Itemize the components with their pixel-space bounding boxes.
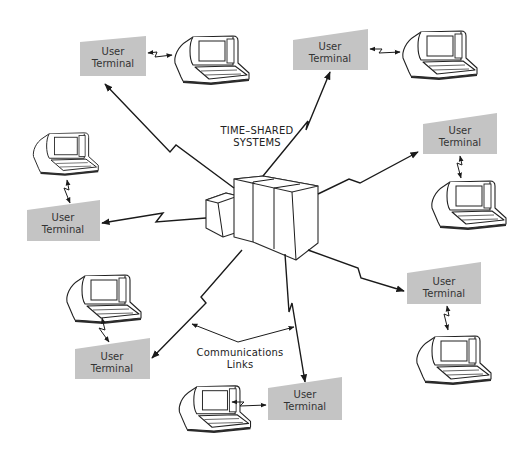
terminal-label-line2: Terminal	[41, 224, 84, 235]
terminal-label-line2: Terminal	[90, 363, 133, 374]
terminal-label-line1: User	[52, 212, 76, 223]
crt-terminal-icon	[175, 36, 249, 85]
links-label-line2: Links	[227, 359, 254, 370]
network-diagram: TIME–SHARED SYSTEMS Communications Links…	[0, 0, 524, 453]
terminal-label-line2: Terminal	[438, 137, 481, 148]
crt-terminal-icon	[403, 31, 477, 80]
crt-terminal-icon	[432, 181, 506, 230]
terminal-label-line2: Terminal	[91, 58, 134, 69]
central-computer-icon	[206, 176, 318, 260]
terminal-label-line2: Terminal	[422, 288, 465, 299]
terminal-label-line2: Terminal	[308, 53, 351, 64]
user-terminal-bottom-center: User Terminal	[179, 377, 342, 433]
terminal-label-line1: User	[101, 351, 125, 362]
crt-terminal-icon	[417, 336, 491, 385]
crt-terminal-icon	[179, 386, 250, 433]
terminal-label-line1: User	[294, 389, 318, 400]
crt-terminal-icon	[33, 133, 98, 176]
user-terminal-top-left: User Terminal	[80, 36, 249, 85]
user-terminal-bottom-left: User Terminal	[67, 275, 150, 379]
terminal-label-line1: User	[319, 41, 343, 52]
central-system-label-line1: TIME–SHARED	[220, 125, 294, 136]
central-system-label-line2: SYSTEMS	[233, 137, 281, 148]
user-terminal-top-right: User Terminal	[293, 29, 477, 80]
user-terminal-right-upper: User Terminal	[423, 113, 506, 230]
crt-terminal-icon	[67, 275, 141, 324]
links-label-line1: Communications	[197, 347, 284, 358]
terminal-label-line1: User	[449, 125, 473, 136]
user-terminal-left: User Terminal	[27, 133, 100, 241]
links-callout: Communications Links	[192, 324, 294, 370]
terminal-label-line1: User	[433, 276, 457, 287]
terminal-label-line1: User	[102, 46, 126, 57]
terminal-label-line2: Terminal	[283, 401, 326, 412]
user-terminal-right-lower: User Terminal	[407, 262, 491, 385]
